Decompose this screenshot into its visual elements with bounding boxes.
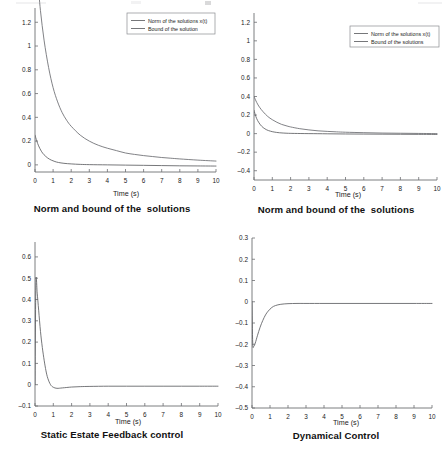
- y-tick-label: 0.1: [22, 360, 31, 367]
- x-tick-label: 1: [51, 177, 55, 184]
- y-tick-label: 0.2: [239, 256, 248, 263]
- x-tick-label: 9: [412, 413, 416, 420]
- x-tick-label: 10: [214, 411, 222, 418]
- x-tick-label: 4: [325, 185, 329, 192]
- panel-bottom-right: –0.5–0.4–0.3–0.2–0.100.10.20.3 012345678…: [224, 230, 448, 455]
- axes-bottom-left: [35, 242, 218, 406]
- y-tick-label: 0: [27, 381, 31, 388]
- x-tick-label: 0: [33, 177, 37, 184]
- x-tick-label: 6: [143, 411, 147, 418]
- y-tick-label: 0.6: [22, 253, 31, 260]
- y-tick-label: –0.3: [236, 362, 249, 369]
- legend-label-0: Norm of the solutions x(t): [148, 18, 207, 24]
- y-tick-label: 0.4: [22, 114, 31, 121]
- panel-top-left: 00.20.40.60.811.2 012345678910 Norm of t…: [0, 0, 224, 230]
- y-tick-label: –0.2: [238, 148, 251, 155]
- chart-bottom-right: –0.5–0.4–0.3–0.2–0.100.10.20.3 012345678…: [224, 230, 448, 430]
- x-axis-label: Time (s): [113, 189, 139, 198]
- y-tick-label: –0.4: [236, 383, 249, 390]
- y-tick-label: 0.2: [22, 338, 31, 345]
- x-tick-label: 4: [322, 413, 326, 420]
- x-tick-label: 5: [124, 177, 128, 184]
- chart-bottom-left: –0.100.10.20.30.40.50.6 012345678910 Tim…: [0, 230, 224, 430]
- panel-bottom-left: –0.100.10.20.30.40.50.6 012345678910 Tim…: [0, 230, 224, 455]
- y-tick-label: 0: [246, 130, 250, 137]
- y-tick-label: 1.2: [241, 19, 250, 26]
- x-axis-label: Time (s): [335, 190, 361, 199]
- x-tick-label: 2: [286, 413, 290, 420]
- curve-bound: [254, 97, 437, 134]
- y-tick-label: 0.6: [22, 90, 31, 97]
- x-tick-label: 4: [106, 177, 110, 184]
- y-tick-label: 1: [246, 37, 250, 44]
- x-tick-label: 3: [88, 177, 92, 184]
- curve-static-feedback-control: [35, 277, 218, 388]
- y-tick-label: –0.1: [236, 319, 249, 326]
- legend-top-left: Norm of the solutions x(t) Bound of the …: [127, 13, 215, 34]
- x-tick-label: 9: [196, 177, 200, 184]
- y-tick-label: 0.2: [241, 111, 250, 118]
- x-tick-label: 7: [161, 411, 165, 418]
- y-tick-label: 0.2: [22, 137, 31, 144]
- x-tick-label: 0: [33, 411, 37, 418]
- y-tick-label: 0: [244, 298, 248, 305]
- x-tick-label: 0: [252, 185, 256, 192]
- curve-dynamical-control: [252, 302, 432, 348]
- panel-title-bottom-right: Dynamical Control: [224, 430, 448, 441]
- x-tick-label: 9: [198, 411, 202, 418]
- panel-title-top-right: Norm and bound of the solutions: [224, 204, 448, 215]
- x-axis-label: Time (s): [115, 417, 141, 426]
- x-tick-label: 8: [180, 411, 184, 418]
- y-tick-label: 0: [27, 161, 31, 168]
- y-tick-label: 0.1: [239, 277, 248, 284]
- curve-norm: [35, 135, 216, 166]
- y-tick-label: 1: [27, 42, 31, 49]
- x-axis-label: Time (s): [333, 418, 359, 427]
- y-tick-label: 0.4: [22, 296, 31, 303]
- legend-label-1: Bound of the solution: [148, 26, 198, 32]
- y-tick-label: 0.8: [241, 56, 250, 63]
- y-ticks-top-left: 00.20.40.60.811.2: [22, 19, 38, 169]
- y-tick-label: 0.4: [241, 93, 250, 100]
- y-tick-label: –0.1: [19, 402, 32, 409]
- x-tick-label: 8: [399, 185, 403, 192]
- x-tick-label: 0: [250, 413, 254, 420]
- x-tick-label: 3: [307, 185, 311, 192]
- curve-norm: [254, 110, 437, 134]
- x-tick-label: 6: [142, 177, 146, 184]
- x-tick-label: 1: [52, 411, 56, 418]
- y-tick-label: –0.2: [236, 341, 249, 348]
- chart-top-left: 00.20.40.60.811.2 012345678910 Norm of t…: [0, 0, 224, 200]
- x-tick-label: 1: [271, 185, 275, 192]
- x-ticks-top-left: 012345678910: [33, 169, 220, 184]
- curves-bottom-left: [35, 277, 218, 388]
- y-tick-label: –0.4: [238, 167, 251, 174]
- curves-top-right: [254, 97, 437, 135]
- x-tick-label: 1: [268, 413, 272, 420]
- x-tick-label: 8: [394, 413, 398, 420]
- y-tick-label: 0.3: [22, 317, 31, 324]
- curves-bottom-right: [252, 302, 432, 348]
- x-tick-label: 4: [106, 411, 110, 418]
- x-tick-label: 9: [417, 185, 421, 192]
- y-tick-label: 1.2: [22, 19, 31, 26]
- x-tick-label: 3: [88, 411, 92, 418]
- x-tick-label: 10: [428, 413, 436, 420]
- x-tick-label: 8: [178, 177, 182, 184]
- y-tick-label: 0.5: [22, 275, 31, 282]
- x-tick-label: 3: [304, 413, 308, 420]
- y-tick-label: 0.3: [239, 234, 248, 241]
- x-tick-label: 2: [289, 185, 293, 192]
- y-tick-label: 0.8: [22, 66, 31, 73]
- y-tick-label: –0.5: [236, 404, 249, 411]
- x-tick-label: 2: [70, 411, 74, 418]
- x-tick-label: 10: [212, 177, 220, 184]
- x-ticks-bottom-left: 012345678910: [33, 403, 222, 418]
- x-tick-label: 10: [433, 185, 441, 192]
- legend-label-1: Bound of the solutions: [371, 39, 424, 45]
- x-tick-label: 6: [362, 185, 366, 192]
- x-tick-label: 7: [380, 185, 384, 192]
- chart-top-right: –0.4–0.200.20.40.60.811.2 012345678910 N…: [224, 0, 448, 200]
- panel-top-right: –0.4–0.200.20.40.60.811.2 012345678910 N…: [224, 0, 448, 230]
- axes-bottom-right: [252, 238, 432, 408]
